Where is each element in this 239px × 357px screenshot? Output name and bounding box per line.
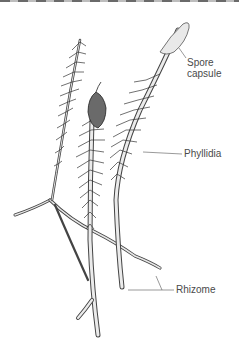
label-spore-capsule-line2: capsule — [187, 68, 221, 79]
leader-spore-capsule — [179, 48, 186, 58]
label-spore-capsule: Spore capsule — [187, 57, 221, 79]
phyllidia-left — [54, 42, 86, 166]
label-spore-capsule-line1: Spore — [187, 57, 214, 68]
spore-capsule — [160, 23, 189, 54]
label-phyllidia: Phyllidia — [184, 148, 221, 159]
leader-lines — [128, 48, 186, 290]
leader-rhizome — [128, 276, 174, 290]
label-rhizome: Rhizome — [176, 284, 215, 295]
moss-plant-illustration — [0, 0, 239, 357]
leader-phyllidia — [143, 152, 182, 154]
